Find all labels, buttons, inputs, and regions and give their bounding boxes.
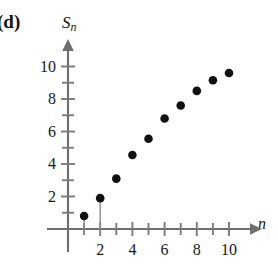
x-axis-tick-label: 6 [161, 242, 169, 258]
x-axis-arrowhead [250, 223, 262, 235]
data-point [225, 69, 234, 78]
data-point [176, 101, 185, 110]
x-axis-tick-label: 4 [128, 242, 136, 258]
scatter-plot-canvas [0, 0, 278, 276]
x-axis-tick-label: 10 [221, 242, 237, 258]
data-points-group [80, 69, 234, 221]
data-point [80, 212, 89, 221]
figure-panel: (d) Sn n 246810 246810 [0, 0, 278, 276]
y-axis-arrowhead [62, 39, 74, 51]
y-axis-tick-label: 10 [40, 59, 56, 75]
data-point [193, 87, 202, 96]
data-point [144, 135, 153, 144]
data-point [128, 151, 137, 160]
data-point [209, 76, 218, 85]
y-axis-tick-label: 4 [48, 156, 56, 172]
x-axis-tick-label: 8 [193, 242, 201, 258]
y-axis-tick-label: 8 [48, 91, 56, 107]
data-point [160, 114, 169, 123]
y-axis-tick-label: 6 [48, 124, 56, 140]
data-point [96, 194, 105, 203]
x-axis-tick-label: 2 [96, 242, 104, 258]
data-point [112, 174, 121, 183]
y-axis-tick-label: 2 [48, 189, 56, 205]
